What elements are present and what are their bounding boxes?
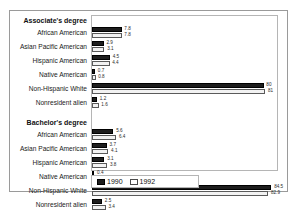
bar-row: African American 7.8 7.8 <box>10 26 289 40</box>
group-title-bachelors: Bachelor's degree <box>10 117 91 128</box>
bar-1992-line: 6.4 <box>92 135 287 140</box>
chart-figure: Associate's degree African American 7.8 … <box>9 10 288 192</box>
bar-1992-line: 3.8 <box>92 163 287 168</box>
bar-pair: 3.1 3.8 <box>92 157 287 169</box>
bar-1992 <box>92 163 107 168</box>
bar-1990-line: 7.8 <box>92 27 287 32</box>
category-label: Hispanic American <box>10 54 91 68</box>
bar-1990-line: 4.5 <box>92 55 287 60</box>
bar-1992 <box>92 191 268 196</box>
legend-item-1992: 1992 <box>130 178 156 185</box>
bar-value-1992: 81 <box>268 88 273 94</box>
category-label: African American <box>10 26 91 40</box>
bar-1992 <box>92 149 108 154</box>
bar-1992-line: 4.4 <box>92 61 287 66</box>
group-title-associates: Associate's degree <box>10 15 91 26</box>
bar-pair: 7.8 7.8 <box>92 27 287 39</box>
bar-value-1992: 82.9 <box>271 190 280 196</box>
bar-1990-line: 3.1 <box>92 157 287 162</box>
legend-swatch-1992-icon <box>130 179 138 185</box>
bar-row: Asian Pacific American 2.9 3.1 <box>10 40 289 54</box>
category-label: Asian Pacific American <box>10 142 91 156</box>
bar-1990 <box>92 199 102 204</box>
legend-label-1992: 1992 <box>140 178 156 185</box>
bar-1990 <box>92 55 110 60</box>
bar-pair: 4.5 4.4 <box>92 55 287 67</box>
legend-item-1990: 1990 <box>97 178 123 185</box>
bar-row: Hispanic American 4.5 4.4 <box>10 54 289 68</box>
bar-pair: 80 81 <box>92 83 287 95</box>
bar-1990 <box>92 143 107 148</box>
bar-row: Nonresident alien 2.5 3.4 <box>10 198 289 205</box>
bar-value-1992: 7.8 <box>124 32 130 38</box>
category-label: Hispanic American <box>10 156 91 170</box>
bar-1992 <box>92 135 116 140</box>
category-label: African American <box>10 128 91 142</box>
bar-row: Hispanic American 3.1 3.8 <box>10 156 289 170</box>
legend-label-1990: 1990 <box>107 178 123 185</box>
bar-1992 <box>92 61 110 66</box>
bar-1992 <box>92 103 99 108</box>
chart-legend: 1990 1992 <box>91 175 199 188</box>
bar-row: Asian Pacific American 3.7 4.1 <box>10 142 289 156</box>
category-label: Non-Hispanic White <box>10 82 91 96</box>
bar-1990-line: 2.9 <box>92 41 287 46</box>
bar-row: Non-Hispanic White 80 81 <box>10 82 289 96</box>
bar-1992-line: 3.1 <box>92 47 287 52</box>
bar-1990 <box>92 157 104 162</box>
bar-1992-line: 81 <box>92 89 287 94</box>
bar-value-1992: 6.4 <box>119 134 125 140</box>
category-label: Native American <box>10 68 91 82</box>
bar-value-1992: 4.4 <box>112 60 118 66</box>
bar-value-1992: 3.8 <box>110 162 116 168</box>
bar-value-1992: 3.4 <box>108 204 114 205</box>
bar-1992-line: 0.8 <box>92 75 287 80</box>
bar-1992-line: 7.8 <box>92 33 287 38</box>
bar-value-1992: 4.1 <box>111 148 117 154</box>
bar-1992-line: 82.9 <box>92 191 287 196</box>
bar-pair: 3.7 4.1 <box>92 143 287 155</box>
category-label: Nonresident alien <box>10 96 91 110</box>
bar-1992 <box>92 33 122 38</box>
bar-pair: 2.5 3.4 <box>92 199 287 205</box>
bar-1990 <box>92 69 95 74</box>
category-label: Asian Pacific American <box>10 40 91 54</box>
bar-1990 <box>92 27 122 32</box>
bar-1992 <box>92 89 265 94</box>
bar-1992-line: 1.6 <box>92 103 287 108</box>
bar-1990 <box>92 83 264 88</box>
bar-1990-line: 0.7 <box>92 69 287 74</box>
bar-row: African American 5.6 6.4 <box>10 128 289 142</box>
bar-1990-line: 2.5 <box>92 199 287 204</box>
bar-1992 <box>92 75 96 80</box>
bar-pair: 1.2 1.6 <box>92 97 287 109</box>
category-label: Native American <box>10 170 91 184</box>
bar-1990 <box>92 129 113 134</box>
bar-value-1992: 0.8 <box>98 74 104 80</box>
bar-1990 <box>92 41 104 46</box>
bar-1990-line: 80 <box>92 83 287 88</box>
bar-1992 <box>92 47 104 52</box>
legend-swatch-1990-icon <box>97 179 105 185</box>
group-spacer <box>10 110 289 117</box>
category-label: Nonresident alien <box>10 198 91 205</box>
bar-pair: 0.7 0.8 <box>92 69 287 81</box>
bar-row: Nonresident alien 1.2 1.6 <box>10 96 289 110</box>
bar-pair: 2.9 3.1 <box>92 41 287 53</box>
bar-1992-line: 4.1 <box>92 149 287 154</box>
bar-value-1992: 1.6 <box>101 102 107 108</box>
bar-value-1992: 3.1 <box>107 46 113 52</box>
bar-1990 <box>92 97 97 102</box>
category-label: Non-Hispanic White <box>10 184 91 198</box>
bar-pair: 5.6 6.4 <box>92 129 287 141</box>
bar-1990-line: 1.2 <box>92 97 287 102</box>
bar-row: Native American 0.7 0.8 <box>10 68 289 82</box>
bar-1990-line: 3.7 <box>92 143 287 148</box>
